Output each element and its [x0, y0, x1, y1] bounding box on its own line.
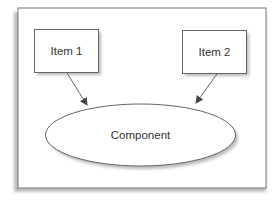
item-2-box[interactable]: Item 2: [183, 31, 250, 77]
item-2-label: Item 2: [199, 46, 231, 58]
component-ellipse[interactable]: Component: [46, 104, 239, 169]
diagram-canvas: Item 1 Item 2 Component: [0, 0, 278, 203]
item-1-label: Item 1: [51, 45, 83, 57]
item-1-box[interactable]: Item 1: [35, 30, 102, 76]
component-label: Component: [111, 129, 171, 141]
